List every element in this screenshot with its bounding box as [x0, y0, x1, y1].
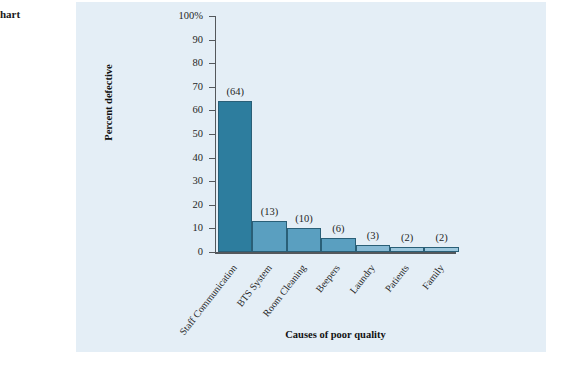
figure-panel: 0102030405060708090100% Percent defectiv… [76, 2, 546, 352]
y-tick-mark [209, 205, 215, 206]
y-tick-label: 70 [76, 82, 207, 93]
y-tick-mark [209, 40, 215, 41]
y-axis-title: Percent defective [103, 43, 114, 163]
caption-fragment: hart [0, 8, 20, 20]
bar[interactable] [252, 221, 286, 252]
bar[interactable] [390, 247, 424, 252]
bar[interactable] [356, 245, 390, 252]
y-tick-label: 100% [76, 11, 207, 22]
y-tick-mark [209, 110, 215, 111]
bar[interactable] [424, 247, 458, 252]
y-tick-label: 40 [76, 153, 207, 164]
y-tick-mark [209, 63, 215, 64]
bar-value-label: (64) [210, 87, 260, 98]
y-axis-line [215, 16, 216, 252]
x-axis-title: Causes of poor quality [215, 329, 456, 340]
bar[interactable] [218, 101, 252, 252]
y-tick-label: 10 [76, 223, 207, 234]
y-tick-label: 0 [76, 247, 207, 258]
y-tick-label: 60 [76, 105, 207, 116]
bar-value-label: (2) [416, 233, 466, 244]
y-tick-label: 80 [76, 58, 207, 69]
y-tick-label: 20 [76, 200, 207, 211]
y-tick-mark [209, 158, 215, 159]
y-tick-mark [209, 134, 215, 135]
y-tick-label: 90 [76, 35, 207, 46]
x-axis-line [215, 252, 456, 254]
y-tick-mark [209, 252, 215, 253]
y-tick-mark [209, 228, 215, 229]
chart-plot-area: 0102030405060708090100% Percent defectiv… [76, 2, 546, 352]
y-tick-mark [209, 181, 215, 182]
y-tick-mark [209, 16, 215, 17]
y-tick-label: 30 [76, 176, 207, 187]
y-tick-label: 50 [76, 129, 207, 140]
